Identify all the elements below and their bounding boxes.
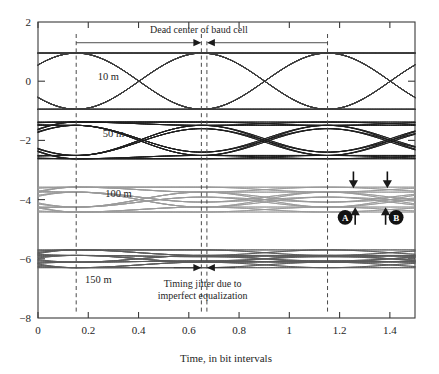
- x-tick-label: 0: [35, 324, 41, 336]
- eye-trace-10-m: [38, 53, 415, 97]
- eye-trace-100-m: [38, 192, 415, 212]
- arrowhead-left-2: [207, 264, 215, 271]
- y-tick-label: −6: [19, 253, 31, 265]
- eye-trace-10-m: [38, 65, 415, 109]
- series-label-10-m: 10 m: [98, 71, 119, 82]
- eye-trace-100-m: [38, 187, 415, 207]
- eye-trace-150-m: [38, 251, 415, 268]
- eye-diagram-figure: 00.20.40.60.811.21.420−2−4−6−8 10 m50 m1…: [0, 0, 439, 374]
- series-label-100-m: 100 m: [105, 188, 132, 199]
- marker-a-letter: A: [342, 213, 349, 223]
- arrow-up-b-head: [381, 207, 390, 215]
- x-axis-title: Time, in bit intervals: [180, 352, 272, 364]
- marker-b-letter: B: [393, 213, 399, 223]
- eye-trace-100-m: [38, 187, 415, 207]
- eye-trace-100-m: [38, 192, 415, 212]
- y-tick-label: 2: [26, 16, 32, 28]
- arrowhead-right-1: [193, 39, 201, 46]
- dead-center-label: Dead center of baud cell: [150, 24, 248, 35]
- eye-trace-100-m: [38, 197, 415, 211]
- eye-trace-100-m: [38, 188, 415, 202]
- series-label-150-m: 150 m: [85, 274, 112, 285]
- eye-trace-100-m: [38, 192, 415, 212]
- x-tick-label: 1: [287, 324, 293, 336]
- series-labels: 10 m50 m100 m150 m: [85, 71, 132, 285]
- x-tick-label: 1.4: [383, 324, 397, 336]
- annotations-layer: Dead center of baud cellTiming jitter du…: [76, 24, 327, 301]
- timing-jitter-label-line1: Timing jitter due to: [164, 278, 242, 289]
- timing-jitter-label-line2: imperfect equalization: [158, 290, 248, 301]
- x-tick-label: 0.4: [132, 324, 146, 336]
- eye-trace-10-m: [38, 65, 415, 109]
- eye-trace-150-m: [38, 250, 415, 267]
- eye-trace-50-m: [38, 122, 415, 149]
- eye-trace-50-m: [38, 132, 415, 159]
- eye-trace-10-m: [38, 53, 415, 97]
- x-tick-label: 0.6: [182, 324, 196, 336]
- eye-traces: [38, 53, 415, 268]
- y-tick-label: −8: [19, 312, 31, 324]
- series-label-50-m: 50 m: [103, 128, 124, 139]
- eye-trace-50-m: [38, 123, 415, 152]
- x-tick-label: 0.8: [232, 324, 246, 336]
- x-tick-label: 0.2: [81, 324, 95, 336]
- arrowhead-left-1: [207, 39, 215, 46]
- eye-trace-10-m: [38, 53, 415, 65]
- y-tick-label: −2: [19, 134, 31, 146]
- arrowhead-right-2: [193, 264, 201, 271]
- y-tick-label: 0: [26, 75, 32, 87]
- y-tick-label: −4: [19, 194, 31, 206]
- eye-diagram-svg: 00.20.40.60.811.21.420−2−4−6−8 10 m50 m1…: [0, 0, 439, 374]
- eye-trace-100-m: [38, 187, 415, 207]
- x-tick-label: 1.2: [333, 324, 347, 336]
- eye-trace-10-m: [38, 97, 415, 109]
